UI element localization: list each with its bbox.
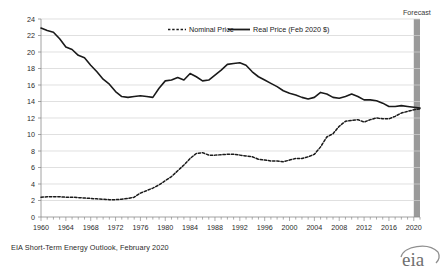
x-axis-tick-label: 2020 [406, 223, 422, 232]
x-axis-tick-label: 1980 [157, 223, 173, 232]
x-axis-tick-label: 2004 [306, 223, 322, 232]
y-axis-tick-label: 4 [31, 180, 35, 189]
x-axis-tick-label: 2000 [282, 223, 298, 232]
x-axis-tick-label: 1972 [108, 223, 124, 232]
y-axis-tick-label: 14 [27, 97, 35, 106]
x-axis-tick-label: 1960 [33, 223, 49, 232]
eia-logo: eia [398, 240, 442, 272]
y-axis-tick-label: 0 [31, 213, 35, 222]
y-axis-tick-labels: 024681012141618202224 [27, 15, 35, 222]
y-axis-tick-label: 18 [27, 64, 35, 73]
x-axis-tick-label: 1984 [182, 223, 198, 232]
y-axis-tick-label: 22 [27, 31, 35, 40]
y-axis-tick-label: 2 [31, 196, 35, 205]
x-axis-tick-label: 2008 [331, 223, 347, 232]
forecast-annotation-label: Forecast [403, 8, 431, 17]
x-axis-tick-label: 2016 [381, 223, 397, 232]
x-axis-tick-label: 1976 [132, 223, 148, 232]
legend-label-nominal-price: Nominal Price [189, 25, 234, 34]
y-axis-tick-label: 12 [27, 114, 35, 123]
eia-logo-swoosh-tail [436, 252, 439, 263]
x-axis-minor-ticks [41, 217, 420, 221]
legend-label-real-price: Real Price (Feb 2020 $) [253, 25, 329, 34]
y-axis-tick-label: 24 [27, 15, 35, 24]
eia-logo-text: eia [402, 249, 425, 270]
source-note: EIA Short-Term Energy Outlook, February … [11, 243, 169, 252]
x-axis-tick-label: 2012 [356, 223, 372, 232]
chart-figure: 024681012141618202224 196019641968197219… [0, 0, 444, 274]
y-axis-tick-label: 8 [31, 147, 35, 156]
x-axis-tick-labels: 1960196419681972197619801984198819921996… [33, 223, 422, 232]
y-axis-tick-label: 20 [27, 48, 35, 57]
x-axis-tick-label: 1996 [257, 223, 273, 232]
price-line-chart: 024681012141618202224 196019641968197219… [0, 0, 444, 274]
x-axis-tick-label: 1964 [58, 223, 74, 232]
y-axis-tick-label: 6 [31, 163, 35, 172]
x-axis-tick-label: 1988 [207, 223, 223, 232]
x-axis-tick-label: 1992 [232, 223, 248, 232]
x-axis-tick-label: 1968 [83, 223, 99, 232]
y-axis-tick-label: 16 [27, 81, 35, 90]
y-axis-tick-label: 10 [27, 130, 35, 139]
